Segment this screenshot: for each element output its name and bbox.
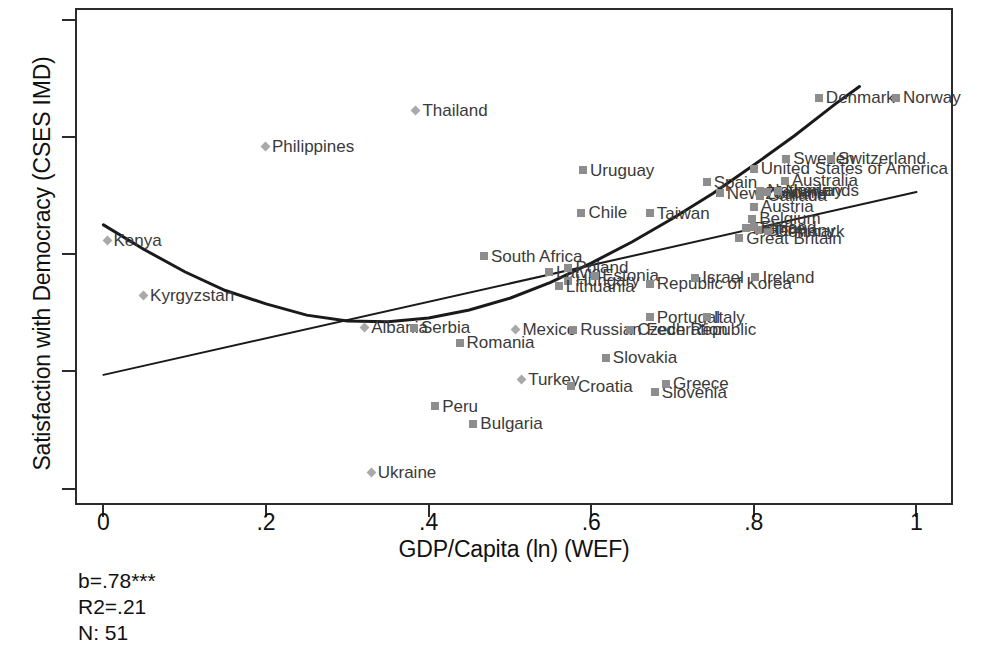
square-marker-icon <box>545 268 553 276</box>
square-marker-icon <box>691 274 699 282</box>
data-point-label: Ukraine <box>378 464 437 481</box>
square-marker-icon <box>662 380 670 388</box>
data-point: Uruguay <box>579 162 654 179</box>
square-marker-icon <box>892 94 900 102</box>
square-marker-icon <box>827 155 835 163</box>
square-marker-icon <box>626 326 634 334</box>
data-point: Kyrgyzstan <box>140 287 234 304</box>
data-point: Bulgaria <box>469 415 542 432</box>
data-point-label: Greece <box>673 375 729 392</box>
data-point: Slovakia <box>602 349 677 366</box>
square-marker-icon <box>577 209 585 217</box>
data-point-label: Chile <box>588 204 627 221</box>
y-axis-title: Satisfaction with Democracy (CSES IMD) <box>29 4 56 524</box>
square-marker-icon <box>651 388 659 396</box>
data-point: Philippines <box>262 138 354 155</box>
square-marker-icon <box>751 273 759 281</box>
x-axis-title: GDP/Capita (ln) (WEF) <box>75 536 953 563</box>
data-point: Italy <box>703 309 745 326</box>
data-point: Norway <box>892 89 961 106</box>
sample-size-stat: N: 51 <box>78 620 156 646</box>
square-marker-icon <box>782 155 790 163</box>
square-marker-icon <box>555 282 563 290</box>
square-marker-icon <box>703 178 711 186</box>
scatter-plot-figure: Satisfaction with Democracy (CSES IMD) 1… <box>0 0 981 650</box>
data-point-label: Kyrgyzstan <box>150 287 234 304</box>
x-tick-label: 1 <box>886 509 946 536</box>
x-tick-label: .4 <box>399 509 459 536</box>
square-marker-icon <box>579 166 587 174</box>
square-marker-icon <box>480 252 488 260</box>
y-tick-label: 2 <box>0 341 3 401</box>
data-point-label: Ireland <box>762 269 814 286</box>
data-point-label: Denmark <box>826 89 895 106</box>
diamond-marker-icon <box>411 106 421 116</box>
y-tick-label: 2.5 <box>0 224 3 284</box>
data-point-label: Israel <box>702 269 744 286</box>
data-point: Peru <box>431 398 478 415</box>
data-point-label: Taiwan <box>657 205 710 222</box>
y-tick-label: 3.5 <box>0 0 3 49</box>
data-point: Switzerland <box>827 150 926 167</box>
square-marker-icon <box>716 189 724 197</box>
x-tick-label: .2 <box>236 509 296 536</box>
square-marker-icon <box>569 326 577 334</box>
data-point: Croatia <box>567 378 633 395</box>
y-tick-mark <box>62 253 75 255</box>
square-marker-icon <box>646 280 654 288</box>
square-marker-icon <box>646 209 654 217</box>
square-marker-icon <box>591 272 599 280</box>
diamond-marker-icon <box>139 291 149 301</box>
data-point-label: Thailand <box>422 102 487 119</box>
square-marker-icon <box>456 339 464 347</box>
data-point-label: Switzerland <box>838 150 926 167</box>
square-marker-icon <box>646 313 654 321</box>
data-point-label: Philippines <box>272 138 354 155</box>
data-point-label: Peru <box>442 398 478 415</box>
diamond-marker-icon <box>366 468 376 478</box>
x-tick-label: .8 <box>724 509 784 536</box>
data-point: Greece <box>662 375 729 392</box>
data-point: Thailand <box>412 102 487 119</box>
square-marker-icon <box>815 94 823 102</box>
data-point: Taiwan <box>646 205 710 222</box>
diamond-marker-icon <box>261 142 271 152</box>
square-marker-icon <box>703 313 711 321</box>
y-tick-mark <box>62 370 75 372</box>
square-marker-icon <box>763 188 771 196</box>
square-marker-icon <box>750 165 758 173</box>
diamond-marker-icon <box>517 374 527 384</box>
data-point-label: Croatia <box>578 378 633 395</box>
data-point: Kenya <box>104 232 162 249</box>
square-marker-icon <box>469 420 477 428</box>
data-point-label: Bulgaria <box>480 415 542 432</box>
data-point: Israel <box>691 269 744 286</box>
regression-statistics: b=.78*** R2=.21 N: 51 <box>78 568 156 646</box>
data-point-label: Slovakia <box>613 349 677 366</box>
y-tick-label: 3 <box>0 106 3 166</box>
square-marker-icon <box>431 402 439 410</box>
data-point-label: Kenya <box>114 232 162 249</box>
data-point-label: Italy <box>714 309 745 326</box>
y-tick-mark <box>62 136 75 138</box>
square-marker-icon <box>602 354 610 362</box>
data-point: Ukraine <box>368 464 437 481</box>
y-tick-label: 1.5 <box>0 458 3 518</box>
data-point: Mexico <box>512 321 576 338</box>
square-marker-icon <box>567 382 575 390</box>
coefficient-stat: b=.78*** <box>78 568 156 594</box>
data-point-label: Uruguay <box>590 162 654 179</box>
y-tick-mark <box>62 488 75 490</box>
data-point: Chile <box>577 204 627 221</box>
data-point: Ireland <box>751 269 814 286</box>
diamond-marker-icon <box>102 236 112 246</box>
square-marker-icon <box>748 215 756 223</box>
diamond-marker-icon <box>511 325 521 335</box>
x-tick-label: 0 <box>73 509 133 536</box>
data-point-label: Mexico <box>522 321 576 338</box>
square-marker-icon <box>564 264 572 272</box>
y-tick-mark <box>62 19 75 21</box>
data-point: Denmark <box>815 89 895 106</box>
square-marker-icon <box>410 324 418 332</box>
r-squared-stat: R2=.21 <box>78 594 156 620</box>
